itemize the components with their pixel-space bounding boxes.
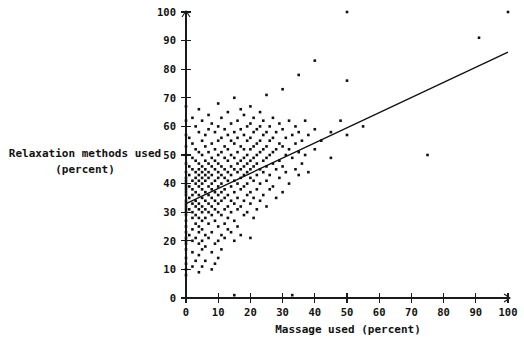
- data-point: [194, 191, 197, 194]
- data-point: [185, 199, 188, 202]
- x-tick-label: 70: [405, 306, 418, 318]
- x-tick-label: 60: [373, 306, 386, 318]
- data-point: [214, 262, 217, 265]
- data-point: [288, 119, 291, 122]
- data-point: [198, 217, 201, 220]
- y-tick-label: 80: [163, 63, 176, 75]
- data-point: [233, 142, 236, 145]
- data-point: [201, 171, 204, 174]
- data-point: [233, 219, 236, 222]
- data-point: [330, 157, 333, 160]
- data-point: [272, 117, 275, 120]
- data-point: [194, 171, 197, 174]
- data-point: [227, 228, 230, 231]
- data-point: [291, 157, 294, 160]
- data-point: [185, 105, 188, 108]
- regression-line: [186, 52, 508, 204]
- data-point: [201, 165, 204, 168]
- data-point: [194, 177, 197, 180]
- data-point: [243, 134, 246, 137]
- data-point: [236, 171, 239, 174]
- data-point: [223, 145, 226, 148]
- data-point: [185, 171, 188, 174]
- data-point: [185, 257, 188, 260]
- data-point: [191, 228, 194, 231]
- data-point: [233, 294, 236, 297]
- data-point: [185, 145, 188, 148]
- data-point: [185, 182, 188, 185]
- data-point: [185, 177, 188, 180]
- data-point: [301, 162, 304, 165]
- data-point: [185, 188, 188, 191]
- data-point: [185, 205, 188, 208]
- data-point: [243, 148, 246, 151]
- data-point: [201, 265, 204, 268]
- data-point: [291, 134, 294, 137]
- data-point: [314, 148, 317, 151]
- data-point: [236, 162, 239, 165]
- data-point: [262, 194, 265, 197]
- x-tick-label: 50: [341, 306, 354, 318]
- data-point: [246, 194, 249, 197]
- data-point: [233, 157, 236, 160]
- data-point: [230, 185, 233, 188]
- data-point: [230, 165, 233, 168]
- data-point: [188, 165, 191, 168]
- data-point: [220, 234, 223, 237]
- data-point: [220, 137, 223, 140]
- data-point: [233, 168, 236, 171]
- data-point: [478, 36, 481, 39]
- data-point: [191, 240, 194, 243]
- data-point: [214, 191, 217, 194]
- data-point: [191, 202, 194, 205]
- data-point: [185, 248, 188, 251]
- data-point: [185, 231, 188, 234]
- data-point: [233, 191, 236, 194]
- data-point: [204, 191, 207, 194]
- data-point: [188, 234, 191, 237]
- data-point: [207, 128, 210, 131]
- data-point: [191, 117, 194, 120]
- data-point: [198, 151, 201, 154]
- y-axis-title-line1: Relaxation methods used: [9, 147, 161, 160]
- data-point: [194, 182, 197, 185]
- x-tick-label: 0: [183, 306, 189, 318]
- data-point: [188, 197, 191, 200]
- data-point: [233, 240, 236, 243]
- data-point: [220, 248, 223, 251]
- data-point: [201, 182, 204, 185]
- x-tick-label: 30: [276, 306, 289, 318]
- data-point: [188, 174, 191, 177]
- data-point: [185, 262, 188, 265]
- data-point: [236, 197, 239, 200]
- data-point: [259, 125, 262, 128]
- data-point: [304, 119, 307, 122]
- data-point: [207, 185, 210, 188]
- data-point: [210, 205, 213, 208]
- data-point: [281, 165, 284, 168]
- data-point: [201, 177, 204, 180]
- data-point: [246, 162, 249, 165]
- data-point: [236, 208, 239, 211]
- data-point: [185, 154, 188, 157]
- data-point: [204, 179, 207, 182]
- data-point: [194, 260, 197, 263]
- data-point: [294, 142, 297, 145]
- data-point: [207, 162, 210, 165]
- data-point: [201, 119, 204, 122]
- data-point: [207, 222, 210, 225]
- x-tick-label: 100: [499, 306, 518, 318]
- data-point: [198, 194, 201, 197]
- data-point: [198, 168, 201, 171]
- data-point: [185, 208, 188, 211]
- data-point: [214, 168, 217, 171]
- data-point: [220, 165, 223, 168]
- data-point: [220, 151, 223, 154]
- y-tick-label: 10: [163, 263, 176, 275]
- data-point: [223, 188, 226, 191]
- data-point: [185, 274, 188, 277]
- data-point: [188, 208, 191, 211]
- data-point: [249, 177, 252, 180]
- data-point: [230, 174, 233, 177]
- data-point: [297, 174, 300, 177]
